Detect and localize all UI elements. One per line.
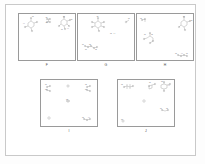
panel-h[interactable]: O N O N O O H N	[136, 13, 194, 61]
panel-label-i: I	[40, 129, 98, 133]
atom-label: O	[121, 83, 123, 86]
atom-label: H	[23, 22, 25, 25]
atom-label: N	[121, 118, 123, 121]
panel-g-structures: O N O H N O N O	[78, 14, 136, 62]
atom-label: O	[66, 98, 68, 101]
atom-label: O	[95, 48, 97, 51]
atom-label: O	[161, 80, 163, 83]
panel-i[interactable]: N O O N O O H	[40, 79, 98, 127]
panel-label-f: F	[18, 63, 76, 67]
panel-j[interactable]: O N O H N O N	[117, 79, 175, 127]
atom-label: N	[85, 88, 87, 91]
chemical-structure-figure: H N O O N O N H F	[0, 0, 205, 164]
atom-label: O	[166, 107, 168, 110]
atom-label: O	[110, 32, 112, 35]
panel-g[interactable]: O N O H N O N O	[77, 13, 135, 61]
panel-j-structures: O N O H N O N	[118, 80, 176, 128]
panel-h-structures: O N O N O O H N	[137, 14, 195, 62]
atom-label: O	[46, 16, 48, 19]
atom-label: N	[149, 81, 151, 84]
atom-label: O	[71, 18, 73, 21]
panel-f[interactable]: H N O O N O N H	[18, 13, 76, 61]
atom-label: N	[85, 48, 87, 51]
panel-label-j: J	[117, 129, 175, 133]
atom-label: O	[191, 19, 193, 22]
atom-label: N	[183, 15, 185, 18]
atom-label: N	[61, 28, 63, 31]
atom-label: O	[85, 83, 87, 86]
atom-label: H	[168, 84, 170, 87]
atom-label: O	[140, 17, 142, 20]
atom-label: H	[181, 52, 183, 55]
panel-i-structures: N O O N O O H	[41, 80, 99, 128]
atom-label: N	[186, 52, 188, 55]
atom-label: N	[144, 33, 146, 36]
atom-label: N	[128, 17, 130, 20]
atom-label: N	[32, 15, 34, 18]
panel-label-h: H	[136, 63, 194, 67]
atom-label: N	[160, 107, 162, 110]
atom-label: O	[89, 43, 91, 46]
atom-label: H	[88, 116, 90, 119]
atom-label: H	[67, 27, 69, 30]
atom-label: O	[175, 52, 177, 55]
panel-f-structures: H N O O N O N H	[19, 14, 77, 62]
atom-label: O	[82, 116, 84, 119]
figure-outer-frame: H N O O N O N H F	[5, 4, 196, 156]
atom-label: O	[46, 21, 48, 24]
atom-label: N	[63, 15, 65, 18]
panel-label-g: G	[77, 63, 135, 67]
atom-label: O	[151, 33, 153, 36]
atom-label: H	[114, 32, 116, 35]
atom-label: N	[45, 83, 47, 86]
atom-label: N	[82, 43, 84, 46]
atom-label: O	[97, 15, 99, 18]
atom-label: O	[45, 88, 47, 91]
